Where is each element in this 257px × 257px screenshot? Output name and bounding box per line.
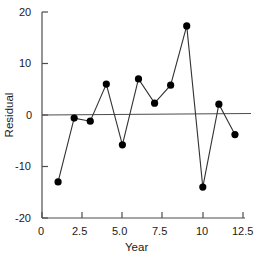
data-point [183, 22, 190, 29]
data-point [215, 101, 222, 108]
data-point [103, 81, 110, 88]
x-tick-label-0: 0 [38, 226, 44, 237]
y-axis-title: Residual [3, 93, 15, 138]
x-tick-label-2p5: 2.5 [72, 226, 87, 237]
data-point [231, 131, 238, 138]
data-point [119, 141, 126, 148]
data-point [135, 75, 142, 82]
y-tick-label-10: 10 [19, 58, 31, 69]
x-tick-label-5p0: 5.0 [112, 226, 127, 237]
residual-series-line [58, 26, 235, 187]
data-point [54, 178, 61, 185]
data-point [167, 82, 174, 89]
y-tick-label-neg20: -20 [15, 213, 31, 224]
x-axis-title: Year [125, 242, 148, 254]
y-tick-label-neg10: -10 [15, 161, 31, 172]
data-point [199, 184, 206, 191]
x-tick-label-10: 10 [196, 226, 208, 237]
x-tick-label-12p5: 12.5 [232, 226, 253, 237]
y-tick-label-0: 0 [26, 110, 32, 121]
residual-series-markers [54, 22, 238, 190]
plot-area: Residual [0, 0, 257, 257]
data-point [151, 100, 158, 107]
y-tick-label-20: 20 [19, 7, 31, 18]
residual-vs-year-chart: Residual 20 10 0 -10 -20 0 2.5 5.0 7.5 1… [0, 0, 257, 257]
data-point [71, 114, 78, 121]
x-axis-ticks [42, 212, 243, 218]
x-tick-label-7p5: 7.5 [152, 226, 167, 237]
data-point [87, 118, 94, 125]
